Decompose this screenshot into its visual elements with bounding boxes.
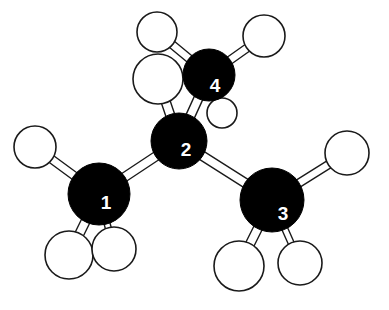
h-c4-front	[207, 98, 237, 128]
molecule-diagram-canvas: 1234	[0, 0, 389, 310]
h-c1-lower-left	[45, 231, 93, 279]
h-c3-upper-right	[325, 131, 369, 175]
carbon-atom-4	[183, 49, 235, 101]
h-c3-lower-left	[214, 241, 264, 291]
h-c2-upper	[133, 54, 183, 104]
carbon-atom-2	[151, 113, 207, 169]
h-c1-lower-right	[92, 227, 136, 271]
molecule-figure: 1234	[0, 0, 389, 310]
h-c3-lower-right	[278, 241, 322, 285]
h-c4-top-left	[137, 12, 177, 52]
h-c1-upper-left	[14, 126, 56, 168]
carbon-atom-layer	[68, 49, 304, 232]
h-c4-top-right	[243, 15, 285, 57]
carbon-atom-3	[240, 168, 304, 232]
carbon-atom-1	[68, 163, 130, 225]
